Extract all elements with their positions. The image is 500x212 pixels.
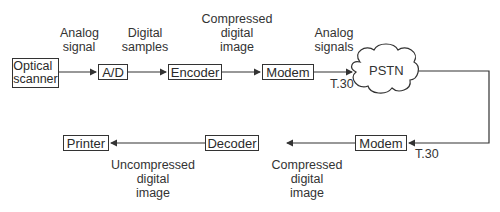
encoder-node: Encoder [168,64,222,80]
compressed-rx-label: Compressed digital image [270,158,344,200]
modem-rx-node: Modem [355,135,407,151]
t30-tx-label: T.30 [330,77,354,91]
analog-signal-label: Analog signal [60,26,98,54]
pstn-label: PSTN [369,63,404,78]
t30-rx-label: T.30 [415,147,439,161]
compressed-tx-label: Compressed digital image [200,12,274,54]
modem-tx-node: Modem [262,64,314,80]
printer-node: Printer [63,135,109,151]
analog-signals-label: Analog signals [311,26,357,54]
digital-samples-label: Digital samples [120,26,170,54]
ad-converter-node: A/D [98,64,128,80]
decoder-node: Decoder [205,135,259,151]
optical-scanner-node: Optical scanner [12,58,59,88]
uncompressed-label: Uncompressed digital image [110,158,196,200]
